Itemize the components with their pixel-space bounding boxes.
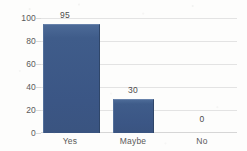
y-tick-label-80: 80 xyxy=(6,37,36,46)
y-tick-label-60: 60 xyxy=(6,60,36,69)
bar-yes xyxy=(43,24,100,133)
bar-value-maybe: 30 xyxy=(116,86,150,95)
category-label-maybe: Maybe xyxy=(113,137,153,146)
category-label-no: No xyxy=(185,137,219,146)
bar-value-no: 0 xyxy=(185,115,219,124)
category-label-yes: Yes xyxy=(51,137,89,146)
bar-maybe xyxy=(113,99,154,133)
y-tick-mark-0 xyxy=(36,133,41,134)
y-tick-label-20: 20 xyxy=(6,106,36,115)
y-tick-label-0: 0 xyxy=(6,129,36,138)
y-axis: 100 80 60 40 20 0 xyxy=(0,0,36,151)
bar-chart: 100 80 60 40 20 0 95 30 0 Yes Maybe No xyxy=(0,0,247,151)
bar-value-yes: 95 xyxy=(48,11,82,20)
y-tick-label-100: 100 xyxy=(6,14,36,23)
y-tick-label-40: 40 xyxy=(6,83,36,92)
